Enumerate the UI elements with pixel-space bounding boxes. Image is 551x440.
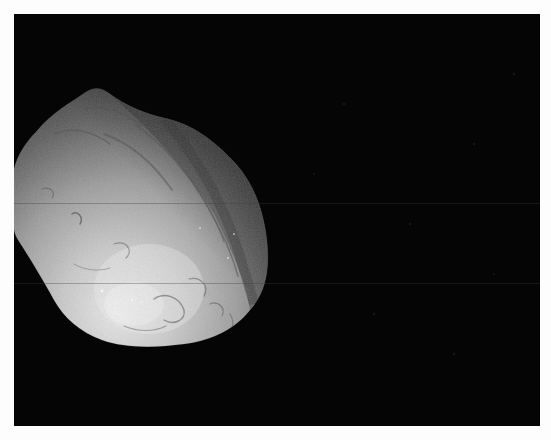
space-image-frame [14,14,540,426]
background-noise [313,73,514,354]
scan-line-artifact [14,283,540,284]
nucleus-body [14,74,284,364]
image-page [0,0,551,440]
comet-nucleus-image [14,14,540,426]
scan-line-artifact [14,203,540,204]
